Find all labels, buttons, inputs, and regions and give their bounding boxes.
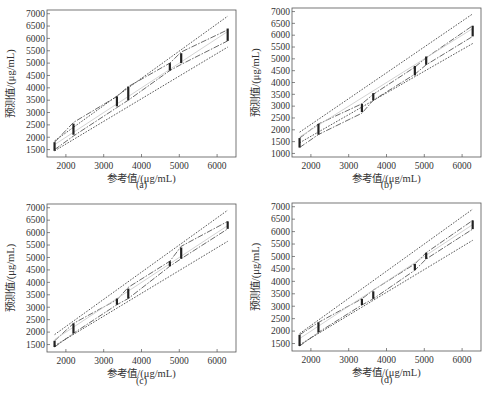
chart-panel-c: 2000300040005000600015002000250030003500… bbox=[4, 203, 236, 387]
lower-band-line bbox=[55, 41, 228, 150]
lower-band-line bbox=[55, 229, 228, 347]
x-tick-label: 2000 bbox=[301, 161, 320, 171]
y-tick-label: 6000 bbox=[26, 228, 45, 238]
y-tick-label: 1000 bbox=[271, 149, 290, 159]
y-tick-label: 4500 bbox=[26, 265, 45, 275]
y-tick-label: 4000 bbox=[26, 83, 45, 93]
upper-band-line bbox=[300, 220, 473, 334]
y-tick-label: 3000 bbox=[26, 108, 45, 118]
panel-caption: (d) bbox=[381, 374, 393, 386]
upper-limit-line bbox=[55, 210, 228, 334]
y-tick-label: 3000 bbox=[26, 303, 45, 313]
x-tick-label: 4000 bbox=[132, 356, 151, 366]
panel-caption: (c) bbox=[136, 375, 147, 387]
y-tick-label: 2000 bbox=[271, 326, 290, 336]
ideal-line bbox=[300, 29, 473, 137]
plot-area bbox=[47, 204, 236, 352]
panel-caption: (a) bbox=[136, 179, 147, 191]
chart-panel-b: 2000300040005000600010001500200025003000… bbox=[249, 7, 481, 191]
y-tick-label: 7000 bbox=[271, 7, 290, 17]
y-tick-label: 5500 bbox=[26, 240, 45, 250]
lower-band-line bbox=[300, 229, 473, 346]
y-tick-label: 2500 bbox=[26, 315, 45, 325]
upper-band-line bbox=[55, 30, 228, 142]
y-tick-label: 3500 bbox=[26, 290, 45, 300]
y-tick-label: 3000 bbox=[271, 101, 290, 111]
y-tick-label: 6500 bbox=[271, 19, 290, 29]
y-tick-label: 4000 bbox=[26, 278, 45, 288]
y-tick-label: 4500 bbox=[26, 71, 45, 81]
y-tick-label: 4500 bbox=[271, 66, 290, 76]
x-tick-label: 3000 bbox=[339, 161, 358, 171]
y-tick-label: 4000 bbox=[271, 277, 290, 287]
y-tick-label: 5000 bbox=[271, 252, 290, 262]
y-tick-label: 6000 bbox=[26, 34, 45, 44]
x-tick-label: 6000 bbox=[453, 355, 472, 365]
lower-band-line bbox=[300, 36, 473, 147]
y-tick-label: 5000 bbox=[26, 58, 45, 68]
x-tick-label: 2000 bbox=[56, 356, 75, 366]
y-tick-label: 3500 bbox=[271, 90, 290, 100]
y-tick-label: 2000 bbox=[26, 133, 45, 143]
x-tick-label: 3000 bbox=[94, 161, 113, 171]
lower-limit-line bbox=[55, 241, 228, 345]
y-axis-label: 预测值/(μg/mL) bbox=[4, 243, 17, 312]
y-tick-label: 3500 bbox=[271, 289, 290, 299]
x-tick-label: 6000 bbox=[208, 161, 227, 171]
upper-band-line bbox=[300, 26, 473, 138]
ideal-line bbox=[55, 32, 228, 145]
ideal-line bbox=[300, 225, 473, 339]
y-tick-label: 1500 bbox=[26, 340, 45, 350]
x-tick-label: 6000 bbox=[208, 356, 227, 366]
y-tick-label: 5500 bbox=[271, 239, 290, 249]
y-tick-label: 2500 bbox=[271, 314, 290, 324]
x-tick-label: 5000 bbox=[170, 356, 189, 366]
x-tick-label: 5000 bbox=[415, 355, 434, 365]
y-tick-label: 5000 bbox=[271, 54, 290, 64]
y-tick-label: 6500 bbox=[271, 214, 290, 224]
y-tick-label: 2000 bbox=[26, 327, 45, 337]
y-tick-label: 4000 bbox=[271, 78, 290, 88]
y-tick-label: 7000 bbox=[26, 9, 45, 19]
y-tick-label: 5000 bbox=[26, 253, 45, 263]
upper-limit-line bbox=[55, 16, 228, 141]
y-axis-label: 预测值/(μg/mL) bbox=[4, 49, 17, 118]
upper-limit-line bbox=[300, 14, 473, 132]
x-tick-label: 3000 bbox=[94, 356, 113, 366]
y-tick-label: 2500 bbox=[271, 113, 290, 123]
ideal-line bbox=[55, 226, 228, 340]
panel-caption: (b) bbox=[381, 179, 393, 191]
y-tick-label: 2000 bbox=[271, 125, 290, 135]
x-tick-label: 2000 bbox=[301, 355, 320, 365]
y-tick-label: 1500 bbox=[271, 137, 290, 147]
x-tick-label: 4000 bbox=[377, 161, 396, 171]
x-tick-label: 5000 bbox=[170, 161, 189, 171]
lower-limit-line bbox=[300, 240, 473, 344]
y-tick-label: 1500 bbox=[26, 145, 45, 155]
y-tick-label: 6000 bbox=[271, 227, 290, 237]
y-tick-label: 5500 bbox=[26, 46, 45, 56]
x-tick-label: 6000 bbox=[453, 161, 472, 171]
y-tick-label: 1500 bbox=[271, 339, 290, 349]
x-tick-label: 5000 bbox=[415, 161, 434, 171]
y-tick-label: 6500 bbox=[26, 215, 45, 225]
x-tick-label: 4000 bbox=[132, 161, 151, 171]
y-tick-label: 6500 bbox=[26, 21, 45, 31]
plot-area bbox=[292, 203, 481, 351]
chart-panel-d: 2000300040005000600015002000250030003500… bbox=[249, 202, 481, 386]
y-tick-label: 7000 bbox=[26, 203, 45, 213]
chart-panel-a: 2000300040005000600015002000250030003500… bbox=[4, 9, 236, 191]
y-tick-label: 4500 bbox=[271, 264, 290, 274]
y-axis-label: 预测值/(μg/mL) bbox=[249, 48, 262, 117]
x-tick-label: 2000 bbox=[56, 161, 75, 171]
x-tick-label: 3000 bbox=[339, 355, 358, 365]
y-tick-label: 3500 bbox=[26, 95, 45, 105]
y-axis-label: 预测值/(μg/mL) bbox=[249, 242, 262, 311]
y-tick-label: 5500 bbox=[271, 42, 290, 52]
y-tick-label: 6000 bbox=[271, 30, 290, 40]
lower-limit-line bbox=[300, 44, 473, 143]
x-tick-label: 4000 bbox=[377, 355, 396, 365]
figure: 2000300040005000600015002000250030003500… bbox=[0, 0, 487, 398]
y-tick-label: 3000 bbox=[271, 302, 290, 312]
upper-limit-line bbox=[300, 209, 473, 333]
